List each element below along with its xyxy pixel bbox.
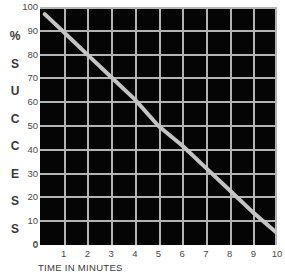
y-axis-tick-label: 20	[18, 192, 38, 202]
x-axis-tick-label: 3	[108, 248, 113, 259]
x-axis-tick-label: 2	[85, 248, 90, 259]
y-axis-tick-label: 100	[18, 2, 38, 12]
y-axis-tick-label: 60	[18, 97, 38, 107]
x-axis-tick-labels: 12345678910	[40, 248, 277, 262]
y-axis-tick-label: 30	[18, 169, 38, 179]
trend-line	[45, 14, 277, 233]
plot-area	[40, 7, 277, 245]
y-axis-tick-label: 40	[18, 145, 38, 155]
success-vs-time-chart: % S U C C E S S 1009080706050403020100 0…	[0, 0, 285, 278]
x-axis-tick-label: 5	[156, 248, 161, 259]
y-axis-tick-label: 70	[18, 73, 38, 83]
x-axis-title: TIME IN MINUTES	[38, 262, 123, 274]
y-axis-tick-label: 10	[18, 216, 38, 226]
y-axis-tick-label: 80	[18, 50, 38, 60]
y-axis-tick-label: 50	[18, 121, 38, 131]
trend-line-series	[40, 7, 277, 245]
x-axis-tick-label: 6	[180, 248, 185, 259]
x-axis-tick-label: 7	[203, 248, 208, 259]
x-axis-tick-label: 9	[251, 248, 256, 259]
x-axis-tick-label: 1	[61, 248, 66, 259]
x-axis-origin-label: 0	[24, 238, 38, 249]
y-axis-tick-label: 90	[18, 26, 38, 36]
x-axis-tick-label: 4	[132, 248, 137, 259]
y-axis-tick-labels: 1009080706050403020100	[18, 2, 38, 250]
x-axis-tick-label: 8	[227, 248, 232, 259]
x-axis-tick-label: 10	[272, 248, 283, 259]
